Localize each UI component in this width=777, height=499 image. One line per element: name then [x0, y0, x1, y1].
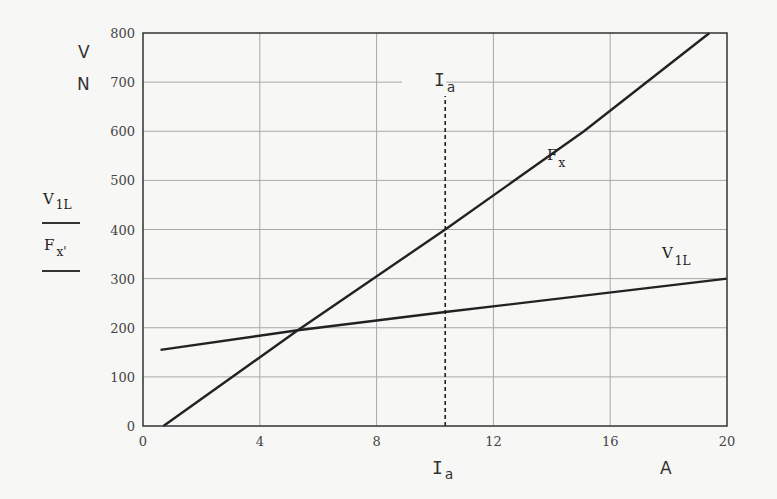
y-tick-label: 300: [110, 272, 135, 287]
y-tick-label: 0: [127, 419, 135, 434]
x-tick-label: 8: [372, 434, 380, 449]
y-unit-v: V: [78, 42, 90, 62]
x-tick-label: 4: [256, 434, 264, 449]
y-axis-legend: V1L Fx': [42, 190, 80, 271]
y-tick-label: 100: [110, 370, 135, 385]
fx-curve-label: Fx: [547, 146, 565, 170]
legend-v-sub: 1L: [56, 198, 72, 212]
x-axis-label: Ia: [432, 457, 453, 482]
x-unit: A: [660, 458, 672, 478]
y-tick-label: 800: [110, 26, 135, 41]
y-tick-label: 600: [110, 124, 135, 139]
v1l-curve-label: V1L: [661, 244, 690, 268]
y-tick-label: 200: [110, 321, 135, 336]
y-tick-label: 500: [110, 173, 135, 188]
x-tick-label: 0: [139, 434, 147, 449]
svg-text:Fx': Fx': [44, 236, 67, 259]
x-tick-label: 20: [719, 434, 736, 449]
y-tick-labels: 0100200300400500600700800: [110, 26, 135, 434]
y-unit-n: N: [77, 74, 90, 94]
legend-f-main: F: [44, 236, 54, 254]
x-tick-label: 16: [602, 434, 619, 449]
chart: 0100200300400500600700800 048121620 V N …: [0, 0, 777, 499]
y-tick-label: 400: [110, 223, 135, 238]
svg-text:V1L: V1L: [42, 190, 71, 212]
v1l-curve: [161, 279, 727, 350]
x-tick-labels: 048121620: [139, 434, 735, 449]
y-tick-label: 700: [110, 75, 135, 90]
x-tick-label: 12: [485, 434, 502, 449]
legend-f-sub: x': [56, 245, 66, 259]
legend-v-main: V: [42, 190, 55, 208]
